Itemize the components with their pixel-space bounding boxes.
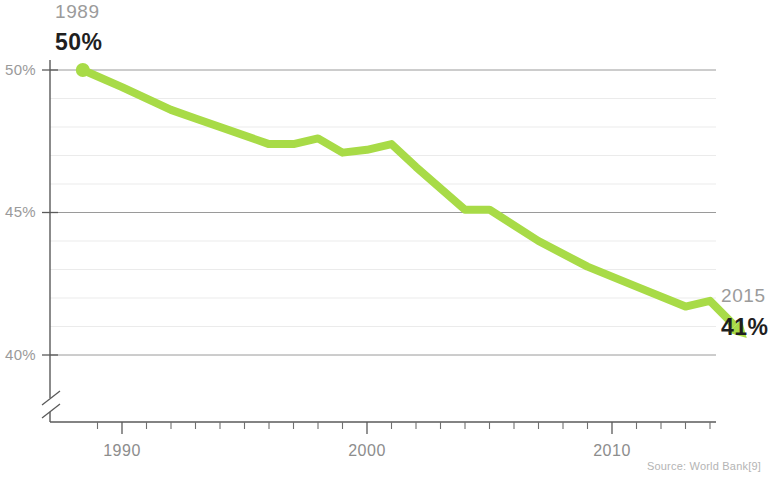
line-chart-figure: 50%45%40% 199020002010 1989 50% 2015 41%… <box>0 0 773 485</box>
chart-container: 50%45%40% 199020002010 1989 50% 2015 41%… <box>0 0 773 485</box>
y-axis-tick-label: 50% <box>5 61 36 78</box>
y-axis-tick-labels: 50%45%40% <box>5 61 36 363</box>
axis-break-slash-upper <box>42 391 60 405</box>
start-annotation-year: 1989 <box>55 1 100 22</box>
start-annotation-value: 50% <box>55 29 102 55</box>
series-line-world-bank <box>83 70 735 326</box>
y-axis-tick-label: 40% <box>5 346 36 363</box>
x-axis-tick-label: 2000 <box>348 442 386 459</box>
end-annotation-year: 2015 <box>721 285 766 306</box>
x-axis-tick-label: 1990 <box>103 442 141 459</box>
x-axis-tick-labels: 199020002010 <box>103 442 631 459</box>
start-point-marker <box>76 63 90 77</box>
start-annotation: 1989 50% <box>55 1 102 55</box>
data-series-group <box>76 63 747 338</box>
x-axis-tick-label: 2010 <box>593 442 631 459</box>
x-axis-ticks <box>98 422 711 434</box>
axis-break-slash-lower <box>42 404 60 418</box>
end-annotation: 2015 41% <box>721 285 768 340</box>
source-note: Source: World Bank[9] <box>647 460 761 472</box>
end-annotation-value: 41% <box>721 314 768 340</box>
y-axis-tick-label: 45% <box>5 203 36 220</box>
major-gridlines <box>50 70 716 355</box>
